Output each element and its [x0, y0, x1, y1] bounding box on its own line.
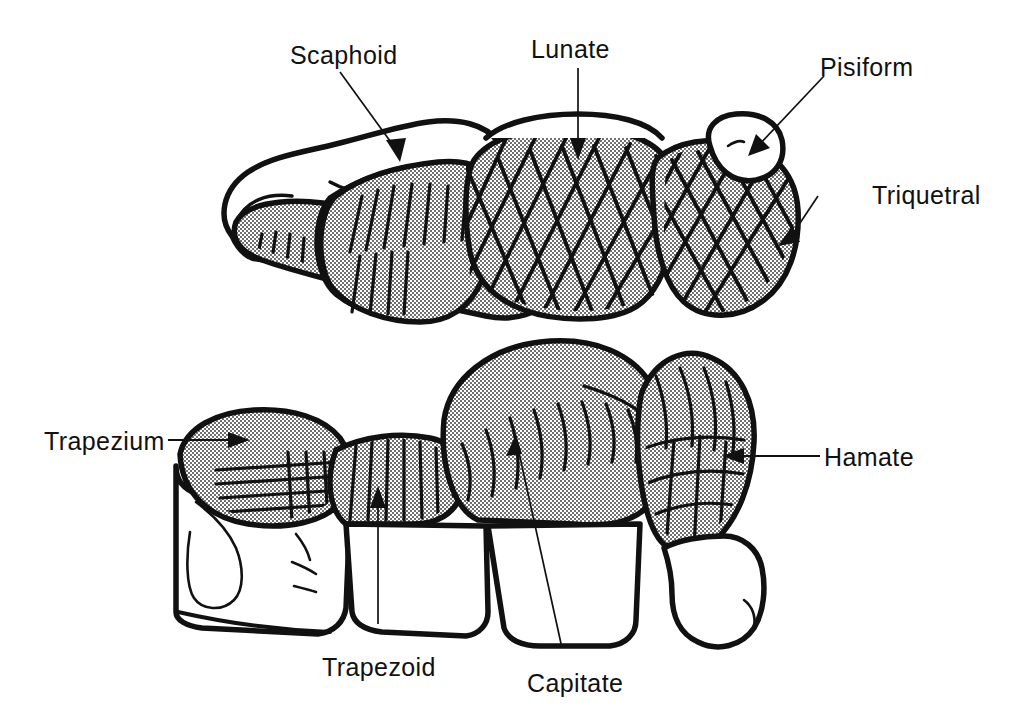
proximal-row-group	[224, 114, 814, 322]
bone-capitate-body	[488, 524, 640, 646]
label-scaphoid: Scaphoid	[290, 41, 397, 69]
bone-trapezoid-body	[346, 524, 488, 636]
bone-trapezium	[180, 410, 349, 526]
distal-row-group	[176, 341, 764, 647]
bone-capitate	[443, 341, 665, 525]
label-trapezium: Trapezium	[44, 427, 165, 455]
label-hamate: Hamate	[824, 443, 914, 471]
anatomy-illustration: Scaphoid Lunate Pisiform Triquetral Trap…	[0, 0, 1018, 721]
lunate-superior-dome	[486, 114, 662, 138]
label-lunate: Lunate	[531, 35, 610, 63]
label-trapezoid: Trapezoid	[322, 653, 436, 681]
label-capitate: Capitate	[527, 669, 623, 697]
bone-hamate-body	[664, 536, 764, 647]
carpal-bones-figure: Scaphoid Lunate Pisiform Triquetral Trap…	[0, 0, 1018, 721]
label-triquetral: Triquetral	[872, 181, 981, 209]
label-pisiform: Pisiform	[820, 53, 913, 81]
leader-pisiform	[758, 76, 824, 146]
